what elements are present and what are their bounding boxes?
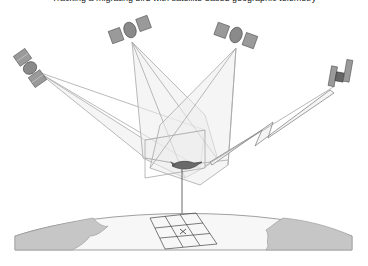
satellite-icon-right xyxy=(328,57,353,89)
signal-cones xyxy=(38,42,236,185)
gps-tracking-diagram xyxy=(0,0,368,266)
satellite-icon-top-right xyxy=(214,20,259,49)
satellite-icon-top-left xyxy=(108,15,153,44)
land-right xyxy=(266,218,352,250)
satellite-icon-left xyxy=(13,48,46,87)
